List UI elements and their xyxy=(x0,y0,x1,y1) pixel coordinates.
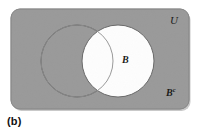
set-b-label: B xyxy=(122,55,129,65)
venn-diagram-figure: U B Bc (b) xyxy=(0,0,202,134)
universe-label: U xyxy=(170,15,178,26)
set-b-complement-label: Bc xyxy=(166,87,176,98)
complement-base: B xyxy=(166,87,173,98)
paper-grain-overlay xyxy=(11,9,189,109)
complement-superscript: c xyxy=(173,86,176,93)
figure-caption: (b) xyxy=(7,115,22,127)
